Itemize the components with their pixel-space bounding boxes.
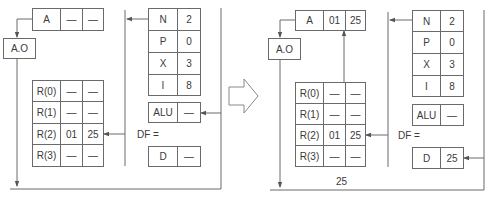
register-high: —: [323, 145, 346, 167]
alu-value: —: [440, 104, 464, 126]
control-name: X: [412, 53, 441, 76]
accumulator-label: A: [295, 10, 324, 31]
accumulator-high: 01: [323, 10, 346, 31]
register-name: R(1): [295, 103, 324, 125]
register-name: R(0): [295, 82, 324, 104]
state-after-panel: A 01 25 A.O R(0) — — R(1) — — R(2) 01 25…: [0, 0, 248, 200]
control-name: I: [412, 75, 441, 97]
address-output-box: A.O: [268, 38, 301, 60]
register-low: —: [345, 103, 366, 125]
control-value: 3: [440, 53, 464, 76]
control-value: 0: [440, 31, 464, 54]
data-value: 25: [440, 147, 464, 169]
register-high: —: [323, 103, 346, 125]
register-name: R(2): [295, 124, 324, 146]
register-high: 01: [323, 124, 346, 146]
control-value: 2: [440, 10, 464, 32]
control-name: P: [412, 31, 441, 54]
df-label: DF =: [398, 130, 420, 141]
register-name: R(3): [295, 145, 324, 167]
register-low: 25: [345, 124, 366, 146]
register-high: —: [323, 82, 346, 104]
register-low: —: [345, 145, 366, 167]
register-low: —: [345, 82, 366, 104]
accumulator-low: 25: [345, 10, 366, 31]
alu-label: ALU: [412, 104, 441, 126]
data-label: D: [412, 147, 441, 169]
bus-value-label: 25: [336, 176, 347, 187]
control-name: N: [412, 10, 441, 32]
control-value: 8: [440, 75, 464, 97]
